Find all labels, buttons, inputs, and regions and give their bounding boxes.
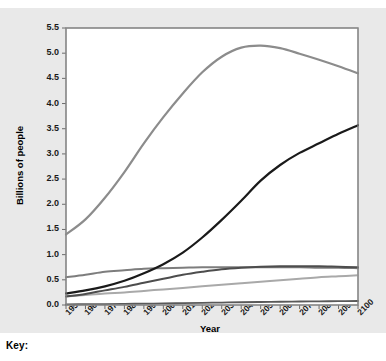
chart-plot-area bbox=[0, 8, 386, 333]
chart-figure: Billions of people Year 0.00.51.01.52.02… bbox=[0, 8, 386, 333]
key-label: Key: bbox=[6, 340, 28, 351]
key-section: Key: bbox=[0, 333, 386, 361]
plot-background bbox=[66, 28, 358, 305]
